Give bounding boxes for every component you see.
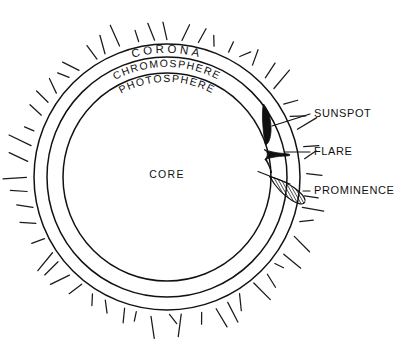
corona-ray <box>170 314 177 323</box>
corona-ray <box>274 70 290 88</box>
prominence-hatch-line <box>222 168 248 214</box>
corona-ray <box>267 274 275 287</box>
corona-ray <box>9 153 28 162</box>
prominence-hatch-line <box>238 168 264 214</box>
corona-ray <box>30 105 41 115</box>
corona-ray <box>163 22 167 39</box>
prominence-stem-line <box>258 172 290 185</box>
corona-ray <box>307 174 322 176</box>
corona-ray <box>252 50 258 65</box>
corona-ray <box>297 118 316 130</box>
corona-ray <box>198 29 206 43</box>
corona-ray <box>240 294 242 311</box>
corona-ray <box>178 314 181 336</box>
corona-ray <box>32 239 45 244</box>
corona-ray <box>123 308 124 323</box>
core-label: CORE <box>149 168 185 180</box>
prominence-hatch-line <box>225 168 251 214</box>
corona-ray <box>302 207 323 211</box>
corona-ray <box>110 25 119 46</box>
corona-ray <box>20 222 36 223</box>
corona-ray <box>69 284 82 293</box>
prominence-hatch-line <box>231 168 257 214</box>
corona-ray <box>254 283 271 300</box>
corona-ray <box>134 312 136 322</box>
corona-ray <box>151 316 154 338</box>
corona-ray <box>3 177 27 178</box>
corona-ray <box>228 302 238 322</box>
corona-ray <box>105 300 107 313</box>
corona-ray <box>304 196 318 198</box>
corona-ray <box>275 264 284 268</box>
feature-label-sunspot: SUNSPOT <box>314 107 371 119</box>
prominence-hatch-line <box>256 168 282 214</box>
sun-structure-diagram: CORONA CHROMOSPHERE PHOTOSPHERE CORE <box>0 0 394 355</box>
corona-ray <box>37 91 48 102</box>
corona-ray <box>100 35 105 54</box>
corona-ray <box>58 73 69 78</box>
corona-ray <box>182 25 190 41</box>
prominence-hatch-line <box>250 168 276 214</box>
corona-ray <box>284 254 301 268</box>
prominence-hatch-line <box>228 168 254 214</box>
corona-ray <box>148 23 155 40</box>
corona-ray <box>284 100 298 104</box>
prominence-hatch-line <box>247 168 273 214</box>
corona-ray <box>135 30 139 41</box>
corona-ray <box>300 220 314 221</box>
corona-ray <box>49 78 56 93</box>
corona-ray <box>229 42 234 52</box>
prominence-hatch-line <box>234 168 260 214</box>
corona-ray <box>265 63 275 78</box>
corona-ray <box>17 205 33 208</box>
corona-ray <box>87 46 97 59</box>
corona-ray <box>38 253 53 271</box>
corona-ray <box>92 294 93 306</box>
corona-ray <box>240 52 251 57</box>
feature-label-flare: FLARE <box>314 145 352 157</box>
corona-ray <box>294 236 309 251</box>
prominence-hatch-line <box>241 168 267 214</box>
corona-ray <box>51 275 70 284</box>
corona-ray <box>216 309 227 327</box>
corona-ray <box>63 62 79 70</box>
corona-ray <box>9 135 31 146</box>
layer-label-photosphere: PHOTOSPHERE <box>117 72 218 96</box>
feature-label-prominence: PROMINENCE <box>314 184 394 196</box>
corona-ray <box>25 127 34 131</box>
corona-ray <box>45 262 58 275</box>
sun-diagram-canvas: CORONA CHROMOSPHERE PHOTOSPHERE CORE <box>0 0 394 355</box>
corona-ray <box>10 190 27 191</box>
